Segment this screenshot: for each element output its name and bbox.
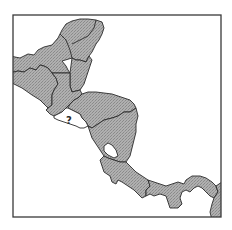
unknown-country-label: ? xyxy=(66,116,72,126)
central-america-map xyxy=(0,0,232,230)
